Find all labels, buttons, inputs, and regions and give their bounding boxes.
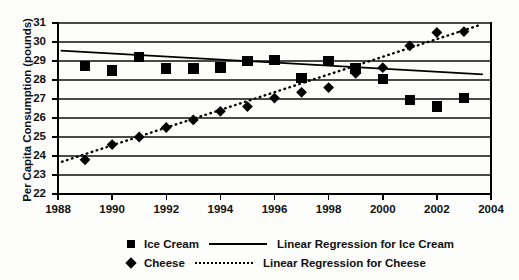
square-marker-icon (118, 240, 144, 248)
y-tick-label: 31 (24, 16, 46, 28)
y-tick-label: 24 (24, 149, 46, 161)
legend-label-ice-cream: Ice Cream (144, 238, 199, 250)
y-tick-label: 27 (24, 92, 46, 104)
x-tick-label: 1996 (255, 203, 295, 215)
trendline-cheese (62, 25, 480, 162)
x-tick-label: 2004 (471, 203, 511, 215)
y-tick-label: 23 (24, 168, 46, 180)
gridlines (58, 23, 491, 194)
x-tick-label: 2002 (417, 203, 457, 215)
legend-row-ice-cream: Ice Cream Linear Regression for Ice Crea… (118, 234, 454, 253)
x-tick-label: 1990 (92, 203, 132, 215)
x-tick-label: 1992 (146, 203, 186, 215)
y-tick-label: 28 (24, 73, 46, 85)
chart-legend: Ice Cream Linear Regression for Ice Crea… (118, 234, 454, 272)
x-tick-label: 1994 (200, 203, 240, 215)
x-tick-label: 2000 (363, 203, 403, 215)
y-tick-label: 30 (24, 35, 46, 47)
legend-row-cheese: Cheese Linear Regression for Cheese (118, 253, 454, 272)
legend-label-regression-ice-cream: Linear Regression for Ice Cream (277, 238, 454, 250)
diamond-marker-icon (118, 259, 144, 267)
x-tick-label: 1988 (38, 203, 78, 215)
legend-label-regression-cheese: Linear Regression for Cheese (263, 257, 426, 269)
solid-line-icon (207, 243, 269, 245)
axis-lines (58, 22, 491, 195)
legend-label-cheese: Cheese (144, 257, 185, 269)
y-tick-label: 26 (24, 111, 46, 123)
y-tick-label: 25 (24, 130, 46, 142)
dotted-line-icon (193, 262, 255, 264)
x-tick-label: 1998 (309, 203, 349, 215)
y-tick-label: 29 (24, 54, 46, 66)
y-tick-label: 22 (24, 187, 46, 199)
